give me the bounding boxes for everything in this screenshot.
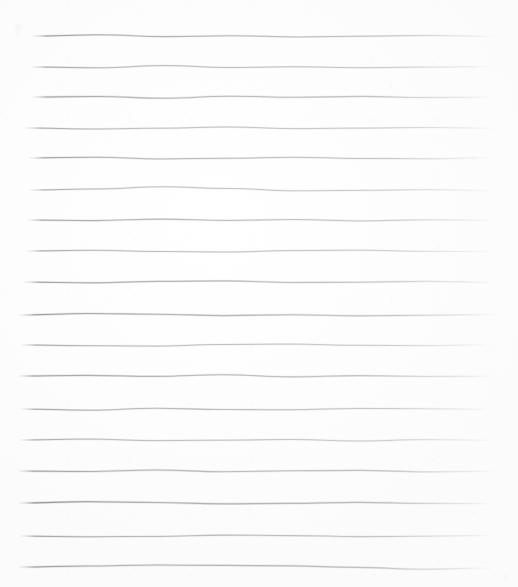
pencil-line — [32, 66, 494, 68]
paper-page — [0, 0, 518, 587]
pencil-line-layer — [0, 0, 518, 587]
pencil-lines-svg — [0, 0, 518, 587]
